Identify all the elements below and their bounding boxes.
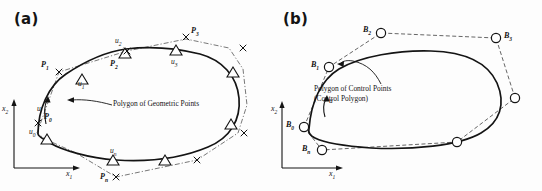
callout-arrow-a [67,97,74,103]
control-point-label-B3: B3 [504,32,512,42]
cross-marker [241,130,247,136]
control-point-label-B2: B2 [363,26,371,36]
panel-b: (b) [271,0,542,191]
callout-text-b: Polygon of Control Points (Control Polyg… [314,84,391,104]
parameter-label-a: u [37,104,41,113]
control-point-label-Pn: Pn [100,173,108,183]
circle-marker [299,122,308,131]
geometric-point-label-u2: u2 [115,36,122,47]
circle-marker [510,93,519,102]
triangle-marker [159,155,171,165]
control-point-label-Bn: Bn [302,145,310,155]
control-point-label-P0: P0 [44,113,52,123]
callout-leader-a [72,100,112,105]
axis-label-y-a: x2 [2,104,8,115]
geometric-point-label-u1: u1 [78,79,85,90]
circle-marker [452,137,461,146]
geometric-point-label-un: un [110,146,117,157]
geometric-point-label-u3: u3 [171,57,178,68]
callout-arrow-b [337,61,344,67]
circle-marker [324,62,333,71]
callout-text-b-line1: Polygon of Control Points [314,84,391,94]
control-point-label-B0: B0 [286,121,294,131]
control-point-label-P1: P1 [41,61,49,71]
circle-marker [317,145,326,154]
cross-marker [113,174,119,180]
cross-marker [240,45,246,51]
control-point-label-P2: P2 [110,60,118,70]
control-point-label-P3: P3 [191,27,199,37]
axis-y-arrow-b [279,101,284,108]
geometric-point-label-u0: u0 [29,127,36,138]
axis-x-arrow-b [336,165,343,170]
axis-label-x-a: x1 [66,169,72,180]
panel-b-graphics [271,0,542,191]
cross-marker [194,157,200,163]
panel-a: (a) [0,0,271,191]
axis-y-arrow-a [11,99,16,106]
axis-x-arrow-a [73,165,80,170]
figure-root: (a) [0,0,542,191]
axis-label-y-b: x2 [271,104,277,115]
callout-text-b-line2: (Control Polygon) [314,94,391,104]
cross-marker [56,69,62,75]
control-point-label-B1: B1 [311,61,319,71]
circle-marker [376,28,385,37]
callout-text-a: Polygon of Geometric Points [113,99,199,109]
axis-label-x-b: x1 [329,169,335,180]
panel-a-graphics [0,0,271,191]
circle-marker [491,33,500,42]
